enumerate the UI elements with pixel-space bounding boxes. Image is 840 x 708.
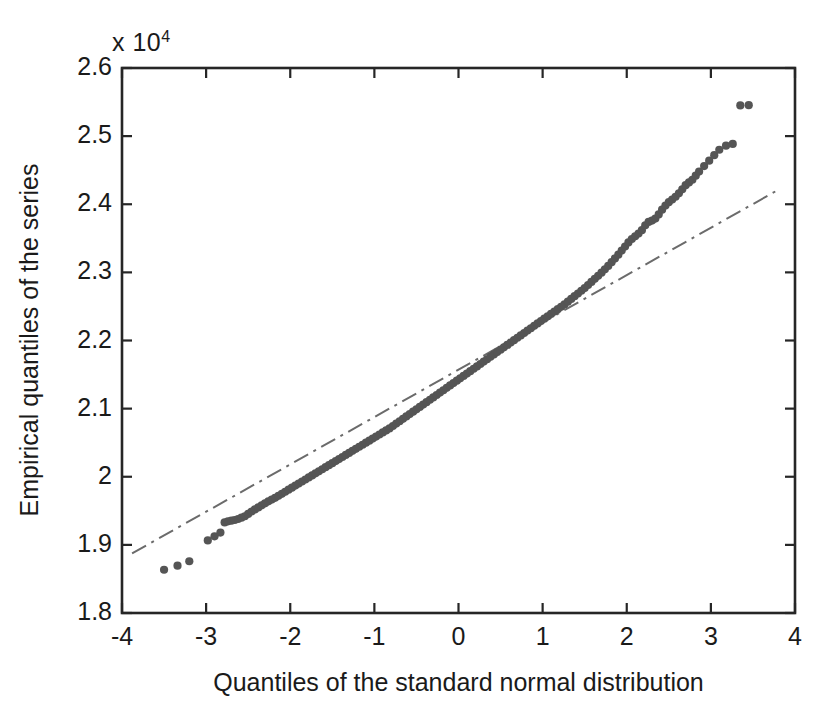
y-tick-label: 1.9 bbox=[20, 529, 112, 558]
x-tick-label: -3 bbox=[176, 622, 236, 651]
data-point bbox=[745, 101, 753, 109]
reference-line bbox=[132, 189, 780, 553]
x-tick-label: 4 bbox=[765, 622, 825, 651]
y-tick-label: 2.3 bbox=[20, 256, 112, 285]
y-axis-multiplier: x 104 bbox=[112, 28, 171, 57]
y-tick-label: 2.2 bbox=[20, 325, 112, 354]
y-axis-multiplier-exponent: 4 bbox=[161, 28, 170, 45]
qq-plot-figure: x 104 Quantiles of the standard normal d… bbox=[0, 0, 840, 708]
y-axis-multiplier-base: x 10 bbox=[112, 28, 161, 56]
data-points-series bbox=[160, 101, 753, 574]
plot-canvas bbox=[0, 0, 840, 708]
y-tick-label: 2.4 bbox=[20, 188, 112, 217]
x-tick-label: 0 bbox=[429, 622, 489, 651]
y-tick-label: 2.6 bbox=[20, 52, 112, 81]
data-point bbox=[736, 101, 744, 109]
data-point bbox=[185, 557, 193, 565]
data-point bbox=[160, 566, 168, 574]
x-axis-label: Quantiles of the standard normal distrib… bbox=[122, 668, 795, 697]
y-tick-label: 2.1 bbox=[20, 393, 112, 422]
y-tick-label: 2 bbox=[20, 461, 112, 490]
y-tick-label: 2.5 bbox=[20, 120, 112, 149]
x-tick-label: 2 bbox=[597, 622, 657, 651]
x-tick-label: -2 bbox=[260, 622, 320, 651]
data-point bbox=[216, 529, 224, 537]
data-point bbox=[173, 562, 181, 570]
x-tick-label: 3 bbox=[681, 622, 741, 651]
x-tick-label: -1 bbox=[344, 622, 404, 651]
data-point bbox=[729, 140, 737, 148]
x-tick-label: -4 bbox=[92, 622, 152, 651]
x-tick-label: 1 bbox=[513, 622, 573, 651]
reference-line-path bbox=[132, 189, 780, 553]
